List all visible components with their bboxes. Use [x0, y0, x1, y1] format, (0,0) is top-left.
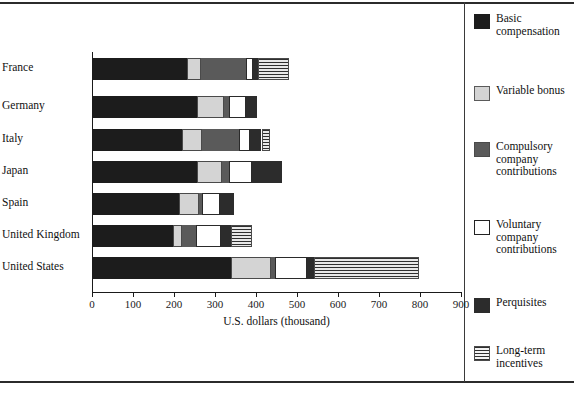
bar-segment-compulsory-contributions [222, 161, 229, 183]
x-tick-mark [461, 292, 462, 297]
legend-swatch-basic-compensation-icon [474, 14, 490, 29]
bar-row: United Kingdom [0, 225, 464, 247]
chart-legend: Basic compensationVariable bonusCompulso… [464, 0, 574, 381]
x-tick-mark [215, 292, 216, 297]
bar-track [93, 225, 252, 247]
legend-swatch-variable-bonus-icon [474, 86, 490, 101]
bar-row: Germany [0, 96, 464, 118]
x-tick-mark [174, 292, 175, 297]
bar-category-label: Japan [2, 164, 88, 176]
x-tick-mark [256, 292, 257, 297]
bar-segment-long-term-incentives [262, 129, 270, 151]
bar-segment-basic-compensation [93, 161, 197, 183]
legend-label: Variable bonus [496, 84, 574, 97]
x-tick-mark [420, 292, 421, 297]
bar-segment-variable-bonus [187, 58, 201, 80]
x-axis-title: U.S. dollars (thousand) [92, 315, 461, 327]
bar-row: France [0, 58, 464, 80]
bar-segment-voluntary-contributions [275, 257, 306, 279]
x-tick-label: 700 [359, 298, 399, 310]
bar-segment-variable-bonus [231, 257, 271, 279]
bar-segment-voluntary-contributions [239, 129, 249, 151]
bar-segment-variable-bonus [173, 225, 182, 247]
bar-track [93, 96, 257, 118]
bar-segment-variable-bonus [197, 96, 224, 118]
bar-segment-voluntary-contributions [196, 225, 221, 247]
bar-segment-long-term-incentives [231, 225, 252, 247]
bar-track [93, 257, 419, 279]
legend-label: Long-term incentives [496, 344, 574, 369]
bar-segment-basic-compensation [93, 58, 187, 80]
bar-segment-perquisites [307, 257, 314, 279]
bar-segment-perquisites [221, 225, 231, 247]
bar-row: United States [0, 257, 464, 279]
x-tick-mark [297, 292, 298, 297]
x-tick-mark [379, 292, 380, 297]
bar-segment-voluntary-contributions [202, 193, 220, 215]
x-tick-label: 400 [236, 298, 276, 310]
bar-segment-variable-bonus [182, 129, 202, 151]
bar-segment-compulsory-contributions [201, 58, 246, 80]
bar-category-label: Spain [2, 196, 88, 208]
x-tick-mark [338, 292, 339, 297]
bar-segment-voluntary-contributions [229, 96, 246, 118]
bar-row: Japan [0, 161, 464, 183]
bar-segment-variable-bonus [179, 193, 199, 215]
bar-track [93, 193, 234, 215]
bar-segment-perquisites [252, 161, 282, 183]
legend-label: Voluntary company contributions [496, 218, 574, 256]
bar-segment-basic-compensation [93, 96, 197, 118]
x-tick-label: 200 [154, 298, 194, 310]
bar-segment-long-term-incentives [314, 257, 419, 279]
x-axis-line [92, 292, 461, 293]
bar-segment-basic-compensation [93, 257, 231, 279]
bar-segment-perquisites [246, 96, 257, 118]
legend-label: Basic compensation [496, 12, 574, 37]
chart-plot-area: 0100200300400500600700800900 FranceGerma… [0, 0, 464, 381]
x-tick-mark [133, 292, 134, 297]
legend-swatch-compulsory-contributions-icon [474, 142, 490, 157]
bar-segment-basic-compensation [93, 129, 182, 151]
bar-segment-compulsory-contributions [202, 129, 239, 151]
bar-segment-variable-bonus [197, 161, 222, 183]
bar-row: Spain [0, 193, 464, 215]
x-tick-label: 600 [318, 298, 358, 310]
x-tick-label: 0 [72, 298, 112, 310]
legend-swatch-voluntary-contributions-icon [474, 220, 490, 235]
bar-track [93, 161, 282, 183]
legend-label: Perquisites [496, 296, 574, 309]
bar-row: Italy [0, 129, 464, 151]
bar-segment-compulsory-contributions [182, 225, 196, 247]
bar-category-label: Germany [2, 99, 88, 111]
bottom-border-rule [0, 381, 574, 383]
bar-category-label: Italy [2, 132, 88, 144]
legend-swatch-perquisites-icon [474, 298, 490, 313]
bar-segment-perquisites [250, 129, 262, 151]
x-tick-label: 300 [195, 298, 235, 310]
bar-segment-perquisites [220, 193, 234, 215]
bar-category-label: United Kingdom [2, 228, 88, 240]
bar-segment-voluntary-contributions [246, 58, 253, 80]
bar-track [93, 129, 270, 151]
x-tick-mark [92, 292, 93, 297]
bar-category-label: United States [2, 260, 88, 272]
bar-segment-basic-compensation [93, 193, 179, 215]
bar-segment-voluntary-contributions [229, 161, 252, 183]
bar-category-label: France [2, 61, 88, 73]
x-tick-label: 800 [400, 298, 440, 310]
bar-segment-long-term-incentives [258, 58, 289, 80]
x-tick-label: 500 [277, 298, 317, 310]
x-tick-label: 100 [113, 298, 153, 310]
legend-label: Compulsory company contributions [496, 140, 574, 178]
bar-track [93, 58, 289, 80]
bar-segment-basic-compensation [93, 225, 173, 247]
legend-swatch-long-term-incentives-icon [474, 346, 490, 361]
